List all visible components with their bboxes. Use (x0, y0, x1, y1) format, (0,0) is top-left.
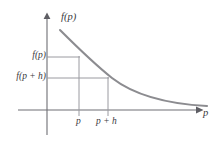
y-axis-label: f(p) (61, 12, 76, 23)
x-tick-label-p-plus-h: p + h (96, 117, 117, 127)
y-tick-label-fp: f(p) (32, 51, 46, 61)
function-curve (60, 30, 207, 106)
x-axis-label: p (203, 108, 208, 119)
x-tick-label-p: p (76, 117, 81, 127)
y-tick-label-fph: f(p + h) (16, 72, 46, 82)
y-axis-arrowhead (44, 13, 51, 20)
function-graph-figure: f(p) p f(p) f(p + h) p p + h (0, 0, 215, 143)
